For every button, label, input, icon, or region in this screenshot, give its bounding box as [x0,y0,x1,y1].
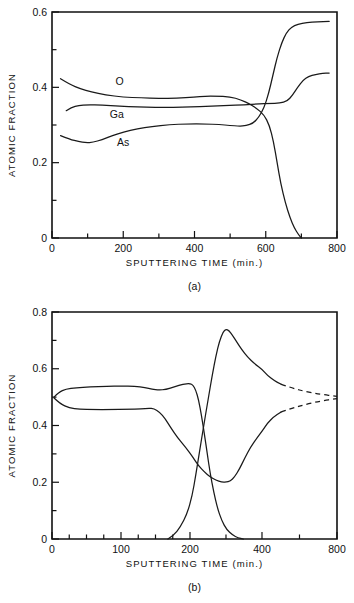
figure-container: 00.20.40.60200400600800OGaAsATOMIC FRACT… [0,0,354,603]
y-axis-title: ATOMIC FRACTION [6,374,17,478]
y-axis-tick-label: 0 [41,232,47,244]
series-curve-lower-branch [54,398,281,482]
panel-caption-b: (b) [188,581,201,593]
x-axis-tick-label: 400 [186,242,204,254]
x-axis-tick-label: 600 [257,242,275,254]
series-label-as: As [117,136,129,148]
x-axis-title: SPUTTERING TIME (min.) [126,257,264,268]
x-axis-title: SPUTTERING TIME (min.) [126,558,264,569]
y-axis-tick-label: 0.6 [32,6,47,18]
x-axis-tick-label: 200 [114,242,132,254]
series-label-o: O [116,75,124,87]
y-axis-tick-label: 0.4 [32,81,47,93]
x-axis-tick-label: 400 [253,543,271,555]
x-axis-tick-label: 800 [328,242,346,254]
chart-svg-b: 00.20.40.60.80100200400800ATOMIC FRACTIO… [0,300,354,603]
x-axis-tick-label: 100 [112,543,130,555]
series-curve-upper-branch [54,384,243,539]
chart-panel-a: 00.20.40.60200400600800OGaAsATOMIC FRACT… [0,0,354,300]
series-curve-rising-branch [168,330,281,539]
y-axis-tick-label: 0.2 [32,476,47,488]
panel-caption-a: (a) [188,280,201,292]
y-axis-tick-label: 0.2 [32,156,47,168]
series-curve-upper-extrapolation [281,384,337,396]
plot-frame [52,312,337,539]
y-axis-tick-label: 0 [41,533,47,545]
x-axis-tick-label: 200 [181,543,199,555]
plot-frame [52,12,337,238]
y-axis-tick-label: 0.4 [32,419,47,431]
x-axis-tick-label: 0 [49,543,55,555]
x-axis-tick-label: 0 [49,242,55,254]
y-axis-tick-label: 0.6 [32,362,47,374]
y-axis-tick-label: 0.8 [32,306,47,318]
series-curve-lower-extrapolation [281,399,337,413]
series-label-ga: Ga [110,108,124,120]
x-axis-tick-label: 800 [328,543,346,555]
series-curve-as [61,21,330,142]
chart-svg-a: 00.20.40.60200400600800OGaAsATOMIC FRACT… [0,0,354,300]
chart-panel-b: 00.20.40.60.80100200400800ATOMIC FRACTIO… [0,300,354,603]
series-curve-ga [66,73,329,111]
y-axis-title: ATOMIC FRACTION [6,73,17,177]
